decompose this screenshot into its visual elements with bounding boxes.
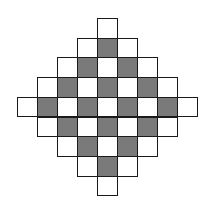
unshaded-cell [97,176,118,197]
unshaded-cell [177,97,198,118]
unshaded-cell [157,77,178,98]
shaded-cell [97,77,118,98]
unshaded-cell [97,136,118,157]
unshaded-cell [57,97,78,118]
unshaded-cell [117,77,138,98]
unshaded-cell [97,57,118,78]
unshaded-cell [17,97,38,118]
shaded-cell [137,77,158,98]
unshaded-cell [77,77,98,98]
shaded-cell [57,77,78,98]
unshaded-cell [97,18,118,39]
shaded-cell [117,57,138,78]
diamond-grid [0,0,213,200]
unshaded-cell [77,117,98,138]
shaded-cell [97,117,118,138]
shaded-cell [117,136,138,157]
shaded-cell [77,97,98,118]
unshaded-cell [37,117,58,138]
unshaded-cell [117,38,138,59]
unshaded-cell [117,117,138,138]
shaded-cell [157,97,178,118]
unshaded-cell [57,136,78,157]
unshaded-cell [157,117,178,138]
shaded-cell [37,97,58,118]
shaded-cell [77,57,98,78]
unshaded-cell [137,97,158,118]
unshaded-cell [137,136,158,157]
unshaded-cell [77,38,98,59]
unshaded-cell [137,57,158,78]
unshaded-cell [77,156,98,177]
shaded-cell [97,38,118,59]
shaded-cell [97,156,118,177]
unshaded-cell [97,97,118,118]
shaded-cell [77,136,98,157]
shaded-cell [57,117,78,138]
unshaded-cell [117,156,138,177]
unshaded-cell [57,57,78,78]
shaded-cell [137,117,158,138]
unshaded-cell [37,77,58,98]
shaded-cell [117,97,138,118]
